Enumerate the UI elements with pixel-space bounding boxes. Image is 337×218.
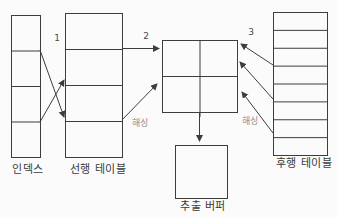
hashing-label-right: 해싱 <box>242 117 259 126</box>
step-3-label: 3 <box>248 28 254 37</box>
step-2-label: 2 <box>143 32 149 41</box>
index-table-label: 인덱스 <box>12 164 44 175</box>
index-table <box>12 16 41 158</box>
hash-join-diagram: 인덱스 선행 테이블 추출 버퍼 후행 테이블 1 2 3 해싱 해싱 <box>0 0 337 218</box>
hash-grid <box>163 41 238 118</box>
hashing-label-left: 해싱 <box>132 119 149 128</box>
arrow-hashing-left-to-grid <box>122 84 157 120</box>
driven-table <box>274 13 328 156</box>
arrow-hashing-right-to-grid <box>242 92 273 133</box>
extract-buffer <box>176 146 228 199</box>
diagram-canvas <box>0 0 337 218</box>
step-1-label: 1 <box>54 34 60 43</box>
extract-buffer-label: 추출 버퍼 <box>180 201 226 212</box>
arrow-driven-to-grid-step3 <box>241 44 273 65</box>
driving-table-label: 선행 테이블 <box>70 164 127 175</box>
driven-table-label: 후행 테이블 <box>276 158 333 169</box>
arrow-index-row3-to-driving <box>40 80 64 122</box>
arrow-driven-to-grid-mid <box>240 62 273 99</box>
arrow-index-row1-to-driving <box>40 50 64 117</box>
driving-table <box>66 14 123 158</box>
